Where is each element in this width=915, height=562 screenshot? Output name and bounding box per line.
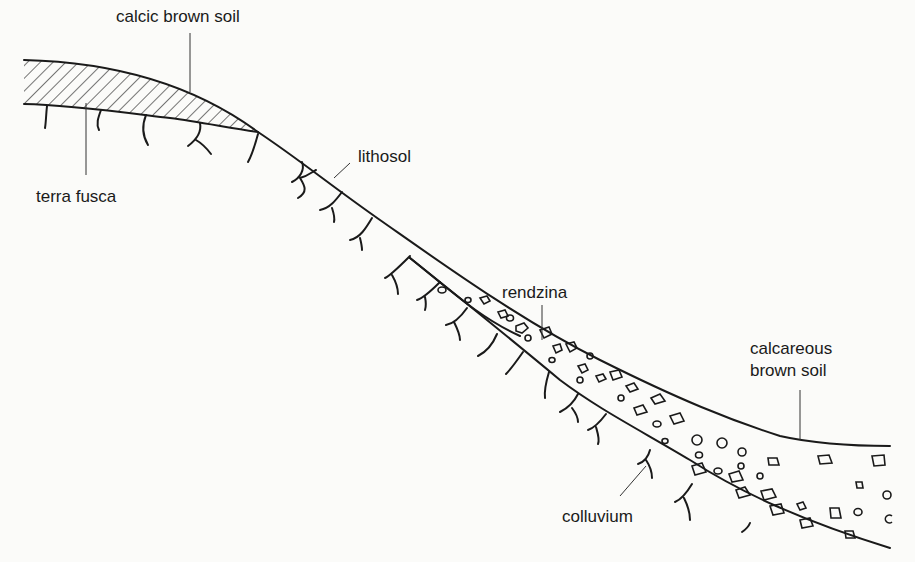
label-terra-fusca: terra fusca bbox=[36, 187, 117, 206]
soil-catena-diagram: calcic brown soil terra fusca lithosol r… bbox=[0, 0, 915, 562]
ground-surface-line bbox=[24, 60, 890, 446]
label-calcareous: calcareous bbox=[750, 339, 832, 358]
stones bbox=[438, 287, 892, 538]
label-colluvium: colluvium bbox=[562, 507, 633, 526]
label-lithosol: lithosol bbox=[358, 147, 411, 166]
label-brown-soil: brown soil bbox=[750, 361, 827, 380]
label-rendzina: rendzina bbox=[502, 283, 568, 302]
terra-fusca-layer bbox=[24, 60, 258, 132]
label-calcic-brown-soil: calcic brown soil bbox=[116, 7, 240, 26]
